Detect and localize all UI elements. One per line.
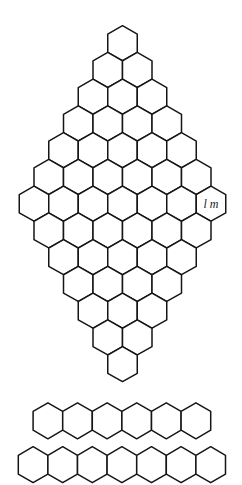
hex-cell: [166, 447, 196, 483]
hex-cell: [108, 347, 138, 382]
hex-cell: [196, 447, 226, 483]
hex-cell: [181, 403, 211, 439]
hex-cell: [122, 403, 152, 439]
hex-cell: [152, 403, 182, 439]
hex-cell: [18, 447, 48, 483]
hex-cell: [48, 447, 78, 483]
hex-diagram-canvas: l m: [0, 0, 242, 485]
hex-cell: [92, 403, 122, 439]
hex-strip-7: [18, 447, 225, 483]
cell-label: l m: [204, 197, 219, 211]
hex-cell: [107, 447, 137, 483]
hex-cell: [33, 403, 63, 439]
hex-cell: [78, 447, 108, 483]
hex-cell: [137, 447, 167, 483]
hex-diamond: l m: [19, 26, 226, 382]
hex-cell: [63, 403, 93, 439]
hex-strips: [18, 403, 225, 483]
hex-strip-6: [33, 403, 211, 439]
